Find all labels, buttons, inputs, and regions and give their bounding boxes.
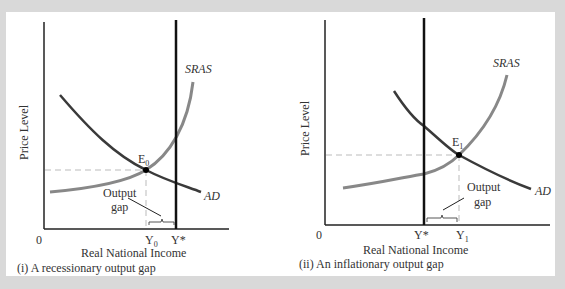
gap-label-line2: gap <box>474 195 491 209</box>
sras-label: SRAS <box>185 62 212 76</box>
gap-bracket <box>427 215 457 222</box>
y-axis-label: Price Level <box>298 100 312 156</box>
equilibrium-label: E1 <box>452 135 463 151</box>
origin-label: 0 <box>36 233 42 247</box>
chart-inflationary-gap: SRAS AD E1 Output gap 0 Y* Y1 Real Natio… <box>298 18 551 271</box>
gap-label-line2: gap <box>111 200 128 214</box>
origin-label: 0 <box>316 228 322 242</box>
caption: (ii) An inflationary output gap <box>299 257 444 271</box>
x-axis-label: Real National Income <box>81 246 186 260</box>
gap-label-line1: Output <box>103 186 137 200</box>
y-axis-label: Price Level <box>17 104 31 160</box>
gap-bracket <box>149 219 174 225</box>
gap-pointer <box>128 198 161 216</box>
ad-label: AD <box>534 184 551 198</box>
ad-label: AD <box>203 189 220 203</box>
gap-pointer <box>443 198 464 210</box>
equilibrium-point <box>456 152 462 158</box>
tick-ystar: Y* <box>414 228 429 242</box>
sras-curve <box>50 82 193 192</box>
tick-ystar: Y* <box>171 233 186 247</box>
output-gap-figure: SRAS AD E0 Output gap 0 Y0 Y* Real Natio… <box>0 0 565 289</box>
gap-label-line1: Output <box>467 180 501 194</box>
tick-y1: Y1 <box>456 228 469 244</box>
sras-label: SRAS <box>493 56 520 70</box>
equilibrium-label: E0 <box>138 152 149 168</box>
caption: (i) A recessionary output gap <box>17 261 156 275</box>
x-axis-label: Real National Income <box>363 243 468 257</box>
chart-recessionary-gap: SRAS AD E0 Output gap 0 Y0 Y* Real Natio… <box>17 20 229 275</box>
